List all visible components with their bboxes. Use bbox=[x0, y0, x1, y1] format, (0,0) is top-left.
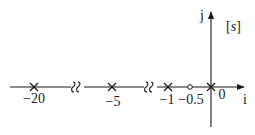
pole-label: −1 bbox=[160, 92, 175, 107]
real-axis-label: i bbox=[243, 92, 247, 107]
pole-zero-diagram: −20 −5 −1 −0.5 0 i j [s] bbox=[0, 0, 255, 135]
axis-break-icon bbox=[145, 82, 153, 92]
zero-label: −0.5 bbox=[178, 92, 203, 107]
pole-label: −5 bbox=[106, 94, 121, 109]
imaginary-axis-label: j bbox=[199, 8, 204, 23]
axis-break-icon bbox=[72, 82, 80, 92]
zero-marker-icon bbox=[188, 85, 193, 90]
plane-label: [s] bbox=[226, 19, 241, 34]
pole-label: 0 bbox=[219, 87, 226, 102]
pole-label: −20 bbox=[23, 91, 45, 106]
